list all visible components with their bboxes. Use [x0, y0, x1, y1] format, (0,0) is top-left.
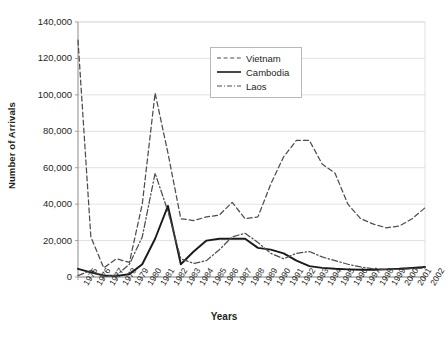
legend-swatch-cambodia: [216, 67, 242, 77]
legend-item-laos: Laos: [216, 79, 297, 93]
legend-label-laos: Laos: [246, 81, 267, 92]
legend-label-vietnam: Vietnam: [246, 53, 281, 64]
legend-swatch-laos: [216, 81, 242, 91]
legend-label-cambodia: Cambodia: [246, 67, 289, 78]
legend: Vietnam Cambodia Laos: [210, 47, 302, 98]
y-tick-label: 80,000: [14, 125, 72, 136]
x-axis-label: Years: [0, 311, 448, 322]
line-chart: Number of Arrivals Years 020,00040,00060…: [0, 0, 448, 337]
y-tick-label: 120,000: [14, 52, 72, 63]
y-tick-label: 20,000: [14, 235, 72, 246]
legend-item-cambodia: Cambodia: [216, 65, 297, 79]
legend-item-vietnam: Vietnam: [216, 51, 297, 65]
y-tick-label: 40,000: [14, 198, 72, 209]
y-tick-label: 0: [14, 271, 72, 282]
legend-swatch-vietnam: [216, 53, 242, 63]
y-tick-label: 140,000: [14, 16, 72, 27]
y-tick-label: 100,000: [14, 89, 72, 100]
y-tick-label: 60,000: [14, 162, 72, 173]
